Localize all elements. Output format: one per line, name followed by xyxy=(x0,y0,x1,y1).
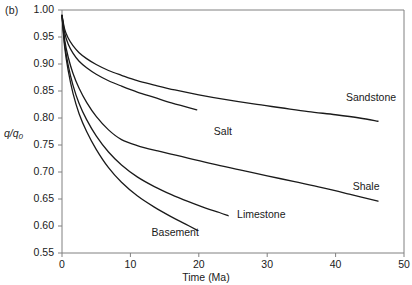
axes-frame xyxy=(62,10,404,253)
x-axis-label: Time (Ma) xyxy=(0,271,412,283)
y-tick-label: 0.95 xyxy=(14,30,54,42)
y-tick-label: 0.80 xyxy=(14,111,54,123)
series-label-basement: Basement xyxy=(152,226,199,238)
chart-figure: (b) q/q0 Time (Ma) 0.550.600.650.700.750… xyxy=(0,0,412,285)
x-tick-label: 0 xyxy=(47,258,77,270)
x-tick-label: 30 xyxy=(252,258,282,270)
series-lines xyxy=(62,15,378,230)
series-label-shale: Shale xyxy=(353,180,380,192)
series-line-sandstone xyxy=(62,15,378,121)
x-tick-label: 20 xyxy=(184,258,214,270)
series-line-shale xyxy=(62,15,378,201)
series-line-basement xyxy=(62,15,197,230)
y-tick-label: 0.55 xyxy=(14,246,54,258)
y-tick-label: 0.90 xyxy=(14,57,54,69)
y-tick-label: 0.65 xyxy=(14,192,54,204)
x-tick-label: 50 xyxy=(389,258,412,270)
y-tick-label: 0.60 xyxy=(14,219,54,231)
series-label-limestone: Limestone xyxy=(237,208,285,220)
x-tick-label: 10 xyxy=(115,258,145,270)
y-tick-label: 0.75 xyxy=(14,138,54,150)
y-tick-label: 1.00 xyxy=(14,3,54,15)
plot-canvas xyxy=(0,0,412,285)
series-line-limestone xyxy=(62,15,228,215)
y-tick-label: 0.85 xyxy=(14,84,54,96)
series-label-sandstone: Sandstone xyxy=(346,91,396,103)
x-tick-label: 40 xyxy=(321,258,351,270)
series-label-salt: Salt xyxy=(214,125,232,137)
y-tick-label: 0.70 xyxy=(14,165,54,177)
